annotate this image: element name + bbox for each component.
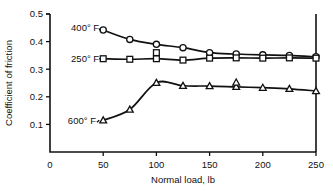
chart-canvas: 0.10.20.30.40.5050100150200250Normal loa… <box>0 0 333 193</box>
x-tick-label: 100 <box>148 159 164 170</box>
data-point-square[interactable] <box>233 55 239 61</box>
x-tick-label: 50 <box>98 159 109 170</box>
y-tick-label: 0.4 <box>30 36 43 47</box>
series-leader-line[interactable] <box>99 29 100 30</box>
data-point-triangle[interactable] <box>286 85 293 91</box>
x-tick-label: 250 <box>308 159 324 170</box>
data-point-circle[interactable] <box>127 36 133 42</box>
series-label-triangle: 600° F <box>68 115 96 126</box>
data-point-square[interactable] <box>127 56 133 62</box>
series-label-circle: 400° F <box>71 22 99 33</box>
friction-vs-load-chart: 0.10.20.30.40.5050100150200250Normal loa… <box>0 0 333 193</box>
data-point-triangle[interactable] <box>100 117 107 123</box>
y-tick-label: 0.1 <box>30 119 43 130</box>
data-point-triangle[interactable] <box>259 84 266 90</box>
data-point-circle[interactable] <box>153 41 159 47</box>
series-leader-line[interactable] <box>97 120 99 122</box>
data-point-triangle[interactable] <box>313 88 320 94</box>
data-point-circle[interactable] <box>100 27 106 33</box>
data-point-square[interactable] <box>287 55 293 61</box>
data-point-square[interactable] <box>180 57 186 63</box>
x-tick-label: 150 <box>202 159 218 170</box>
data-point-square[interactable] <box>207 55 213 61</box>
outlier-point-triangle[interactable] <box>233 79 240 85</box>
data-point-square[interactable] <box>154 56 160 62</box>
outlier-point-square[interactable] <box>154 50 160 56</box>
series-label-square: 250° F <box>71 53 99 64</box>
y-tick-label: 0.3 <box>30 64 43 75</box>
y-axis-title: Coefficient of friction <box>3 40 14 126</box>
data-point-circle[interactable] <box>180 45 186 51</box>
x-tick-label: 200 <box>255 159 271 170</box>
data-point-triangle[interactable] <box>206 83 213 89</box>
data-point-triangle[interactable] <box>153 79 160 85</box>
y-tick-label: 0.5 <box>30 8 43 19</box>
x-axis-title: Normal load, lb <box>151 174 215 185</box>
x-tick-label: 0 <box>47 159 52 170</box>
data-point-square[interactable] <box>100 56 106 62</box>
y-tick-label: 0.2 <box>30 91 43 102</box>
data-point-square[interactable] <box>260 55 266 61</box>
data-point-square[interactable] <box>313 55 319 61</box>
data-point-triangle[interactable] <box>180 82 187 88</box>
